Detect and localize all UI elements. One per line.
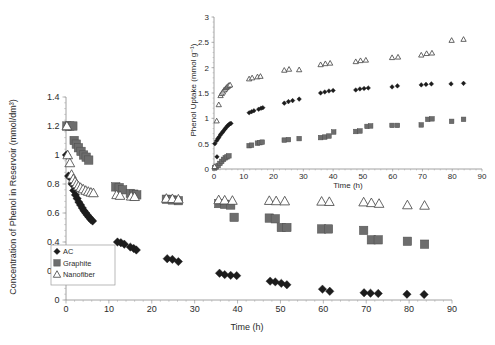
x-tick-label: 50 bbox=[275, 304, 285, 314]
data-point-graphite bbox=[283, 223, 291, 231]
y-tick-label: 0.5 bbox=[198, 140, 210, 149]
data-point-graphite bbox=[390, 123, 395, 128]
x-tick-label: 40 bbox=[329, 172, 338, 181]
x-tick-label: 20 bbox=[147, 304, 157, 314]
x-tick-label: 30 bbox=[299, 172, 308, 181]
inset-y-axis-title: Phenol Uptake (mmol g⁻¹) bbox=[189, 43, 198, 136]
x-tick-label: 40 bbox=[233, 304, 243, 314]
x-tick-label: 0 bbox=[212, 172, 217, 181]
x-tick-label: 90 bbox=[478, 172, 487, 181]
data-point-graphite bbox=[318, 135, 323, 140]
data-point-graphite bbox=[419, 123, 424, 128]
y-tick-label: 1.5 bbox=[198, 89, 210, 98]
y-tick-label: 1 bbox=[54, 150, 59, 160]
data-point-graphite bbox=[54, 260, 60, 266]
x-tick-label: 60 bbox=[388, 172, 397, 181]
y-tick-label: 3 bbox=[205, 13, 210, 22]
data-point-graphite bbox=[327, 134, 332, 139]
y-tick-label: 2 bbox=[205, 64, 210, 73]
x-tick-label: 20 bbox=[269, 172, 278, 181]
data-point-graphite bbox=[324, 225, 332, 233]
data-point-graphite bbox=[368, 124, 373, 129]
data-point-graphite bbox=[358, 129, 363, 134]
data-point-graphite bbox=[227, 154, 232, 159]
data-point-graphite bbox=[449, 119, 454, 124]
scatter-plot-figure: 0102030405060708090 00.20.40.60.811.21.4… bbox=[0, 0, 495, 345]
main-x-axis-title: Time (h) bbox=[230, 322, 263, 332]
x-tick-label: 80 bbox=[448, 172, 457, 181]
y-tick-label: 1 bbox=[205, 114, 210, 123]
data-point-graphite bbox=[322, 135, 327, 140]
data-point-graphite bbox=[353, 129, 358, 134]
y-tick-label: 0.8 bbox=[47, 179, 60, 189]
data-point-graphite bbox=[286, 137, 291, 142]
x-tick-label: 70 bbox=[418, 172, 427, 181]
x-tick-label: 70 bbox=[361, 304, 371, 314]
data-point-graphite bbox=[359, 226, 367, 234]
main-chart-legend: ACGraphiteNanofiber bbox=[51, 245, 115, 285]
legend-label-graphite: Graphite bbox=[63, 259, 91, 268]
data-point-graphite bbox=[395, 123, 400, 128]
x-tick-label: 90 bbox=[447, 304, 457, 314]
x-tick-label: 0 bbox=[63, 304, 68, 314]
data-point-graphite bbox=[403, 237, 411, 245]
x-tick-label: 10 bbox=[104, 304, 114, 314]
data-point-graphite bbox=[271, 215, 279, 223]
y-tick-label: 1.2 bbox=[47, 121, 60, 131]
data-point-graphite bbox=[282, 138, 287, 143]
y-tick-label: 0.6 bbox=[47, 208, 60, 218]
data-point-graphite bbox=[331, 130, 336, 135]
data-point-graphite bbox=[461, 117, 466, 122]
x-tick-label: 10 bbox=[239, 172, 248, 181]
y-tick-label: 1.4 bbox=[47, 92, 60, 102]
legend-label-nanofiber: Nanofiber bbox=[63, 270, 96, 279]
x-tick-label: 80 bbox=[404, 304, 414, 314]
data-point-graphite bbox=[249, 143, 254, 148]
x-tick-label: 30 bbox=[190, 304, 200, 314]
data-point-graphite bbox=[297, 136, 302, 141]
data-point-graphite bbox=[420, 240, 428, 248]
data-point-graphite bbox=[430, 117, 435, 122]
figure-container: 0102030405060708090 00.20.40.60.811.21.4… bbox=[0, 0, 495, 345]
legend-label-ac: AC bbox=[63, 247, 74, 256]
y-tick-label: 0 bbox=[205, 165, 210, 174]
data-point-graphite bbox=[260, 140, 265, 145]
data-point-graphite bbox=[426, 117, 431, 122]
data-point-graphite bbox=[230, 213, 238, 221]
x-tick-label: 50 bbox=[358, 172, 367, 181]
data-point-graphite bbox=[85, 156, 93, 164]
data-point-graphite bbox=[374, 236, 382, 244]
inset-x-axis-title: Time (h) bbox=[333, 181, 363, 190]
x-tick-label: 60 bbox=[318, 304, 328, 314]
main-y-axis-title: Concentration of Phenol in Reservoir (mm… bbox=[8, 99, 18, 295]
y-tick-label: 0 bbox=[54, 295, 59, 305]
y-tick-label: 2.5 bbox=[198, 38, 210, 47]
